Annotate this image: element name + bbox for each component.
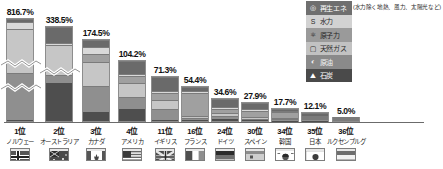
- bar-slot: 17.7%: [270, 12, 300, 122]
- stacked-bar: [241, 102, 269, 122]
- bar-segment-oil: [7, 73, 33, 119]
- bar-value-label: 27.9%: [244, 91, 266, 101]
- bar-slot: 104.2%: [114, 12, 150, 122]
- stacked-bar: [82, 39, 110, 122]
- bar-segment-hydro: [7, 22, 33, 29]
- bar-segment-hydro: [83, 47, 109, 55]
- legend-item-label: 原油: [320, 57, 333, 67]
- legend-note: (水力除く地熱、風力、太陽光など): [353, 3, 441, 11]
- bar-segment-renew: [46, 27, 72, 43]
- country-label: 日本: [309, 137, 320, 146]
- legend-item-gas: ▢天然ガス: [306, 42, 352, 56]
- flag-australia-icon: [49, 148, 69, 161]
- axis-category-ドイツ: 24位ドイツ: [210, 123, 240, 161]
- rank-label: 35位: [307, 125, 323, 136]
- legend-item-label: 天然ガス: [320, 43, 347, 53]
- renewable-icon: ◎: [308, 3, 318, 13]
- bar-segment-renew: [119, 61, 145, 74]
- country-label: スペイン: [244, 137, 266, 146]
- axis-category-スペイン: 30位スペイン: [240, 123, 270, 161]
- bar-value-label: 34.6%: [214, 87, 236, 97]
- flag-korea-icon: [275, 148, 295, 161]
- bar-segment-nuke: [83, 54, 109, 62]
- legend-item-label: 水力: [320, 16, 333, 26]
- bar-value-label: 17.7%: [274, 97, 296, 107]
- bar-segment-nuke: [182, 93, 208, 116]
- bar-value-label: 71.3%: [154, 65, 176, 75]
- legend-item-hydro: S水力: [306, 15, 352, 29]
- bar-segment-renew: [83, 40, 109, 47]
- stacked-bar: [181, 86, 209, 122]
- rank-label: 36位: [338, 125, 354, 136]
- legend: ◎再生エネS水力⚛原子力▢天然ガス◐原油⛰石炭: [306, 1, 352, 82]
- bar-segment-renew: [152, 77, 178, 91]
- rank-label: 2位: [53, 125, 65, 136]
- bar-value-label: 174.5%: [83, 28, 110, 38]
- bar-segment-gas: [7, 29, 33, 73]
- category-axis: 1位ノルウェー2位オーストラリア3位カナダ4位アメリカ11位イギリス16位フラン…: [0, 123, 443, 169]
- country-label: イギリス: [154, 137, 176, 146]
- bar-segment-coal: [46, 83, 72, 121]
- bar-segment-gas: [119, 83, 145, 98]
- legend-item-nuke: ⚛原子力: [306, 28, 352, 42]
- stacked-bar: [151, 76, 179, 122]
- legend-item-label: 再生エネ: [320, 3, 347, 13]
- flag-france-icon: [185, 148, 205, 161]
- stacked-bar: [271, 108, 299, 122]
- stacked-bar: [301, 112, 329, 122]
- stacked-bar: [45, 26, 73, 122]
- flag-canada-icon: [86, 148, 106, 161]
- country-label: カナダ: [88, 137, 105, 146]
- rank-label: 24位: [217, 125, 233, 136]
- bar-value-label: 12.1%: [304, 101, 326, 111]
- bar-slot: 174.5%: [78, 12, 114, 122]
- axis-category-日本: 35位日本: [300, 123, 330, 161]
- axis-category-カナダ: 3位カナダ: [78, 123, 114, 161]
- flag-germany-icon: [215, 148, 235, 161]
- country-label: 韓国: [279, 137, 290, 146]
- bar-value-label: 816.7%: [7, 7, 34, 17]
- legend-item-oil: ◐原油: [306, 55, 352, 69]
- rank-label: 34位: [277, 125, 293, 136]
- rank-label: 16位: [187, 125, 203, 136]
- bar-segment-renew: [212, 99, 238, 107]
- nuclear-icon: ⚛: [308, 30, 318, 40]
- axis-category-イギリス: 11位イギリス: [150, 123, 180, 161]
- bar-slot: 816.7%: [0, 12, 40, 122]
- country-label: ルクセンブルグ: [327, 137, 366, 146]
- flag-luxembourg-icon: [336, 148, 356, 161]
- hydro-icon: S: [308, 16, 318, 26]
- axis-category-フランス: 16位フランス: [180, 123, 210, 161]
- axis-category-アメリカ: 4位アメリカ: [114, 123, 150, 161]
- axis-category-ルクセンブルグ: 36位ルクセンブルグ: [330, 123, 362, 161]
- axis-category-ノルウェー: 1位ノルウェー: [0, 123, 40, 161]
- flag-spain-icon: [245, 148, 265, 161]
- flag-norway-icon: [10, 148, 30, 161]
- country-label: ノルウェー: [6, 137, 34, 146]
- coal-icon: ⛰: [308, 70, 318, 80]
- oil-icon: ◐: [308, 57, 318, 67]
- bar-segment-oil: [46, 75, 72, 83]
- bar-segment-coal: [83, 112, 109, 121]
- bar-segment-gas: [46, 45, 72, 75]
- bar-value-label: 104.2%: [119, 49, 146, 59]
- flag-usa-icon: [122, 148, 142, 161]
- country-label: ドイツ: [217, 137, 234, 146]
- gas-icon: ▢: [308, 43, 318, 53]
- stacked-bar: [6, 18, 34, 122]
- axis-category-オーストラリア: 2位オーストラリア: [40, 123, 78, 161]
- rank-label: 3位: [90, 125, 102, 136]
- energy-self-sufficiency-chart: 816.7%338.5%174.5%104.2%71.3%54.4%34.6%2…: [0, 0, 443, 169]
- bar-slot: 71.3%: [150, 12, 180, 122]
- rank-label: 4位: [126, 125, 138, 136]
- legend-item-label: 原子力: [320, 30, 340, 40]
- bar-segment-gas: [83, 62, 109, 86]
- bar-value-label: 54.4%: [184, 75, 206, 85]
- rank-label: 11位: [157, 125, 172, 136]
- rank-label: 1位: [14, 125, 26, 136]
- bar-slot: 27.9%: [240, 12, 270, 122]
- legend-item-renew: ◎再生エネ: [306, 1, 352, 15]
- country-label: オーストラリア: [40, 137, 79, 146]
- country-label: アメリカ: [121, 137, 143, 146]
- rank-label: 30位: [247, 125, 263, 136]
